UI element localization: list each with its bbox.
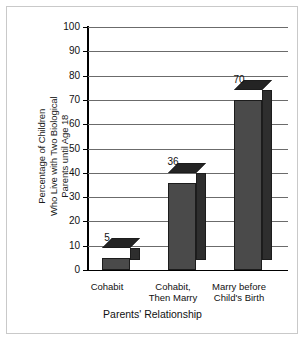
y-tick-label-80: 80 [50, 71, 80, 81]
x-category-label-cohabit-then-marry-line-2: Then Marry [136, 292, 210, 303]
y-tick-label-60: 60 [50, 119, 80, 129]
y-tick-label-100: 100 [50, 22, 80, 32]
y-tick-label-20: 20 [50, 216, 80, 226]
x-category-label-marry-before-birth: Marry before Child's Birth [202, 281, 276, 303]
bar-cohabit-then-marry-side [196, 173, 206, 260]
y-tick-label-70: 70 [50, 95, 80, 105]
bar-cohabit-front [102, 258, 130, 270]
x-category-label-cohabit-line-1: Cohabit [70, 281, 144, 292]
y-tick-label-30: 30 [50, 192, 80, 202]
y-tick-label-90: 90 [50, 46, 80, 56]
x-category-label-marry-before-birth-line-2: Child's Birth [202, 292, 276, 303]
bar-cohabit-side [130, 248, 140, 260]
bar-chart-figure: Percentage of Children Who Live with Two… [0, 0, 305, 341]
y-tick-label-50: 50 [50, 144, 80, 154]
bar-cohabit-then-marry-front [168, 183, 196, 270]
x-category-label-cohabit: Cohabit [70, 281, 144, 292]
x-category-label-cohabit-then-marry: Cohabit, Then Marry [136, 281, 210, 303]
bar-value-label-marry-before-birth: 70 [217, 74, 261, 85]
bar-marry-before-birth-front [234, 100, 262, 270]
x-axis-baseline [88, 270, 288, 271]
bar-marry-before-birth[interactable] [234, 27, 272, 270]
bar-value-label-cohabit-then-marry: 36 [151, 156, 195, 167]
y-tick-label-10: 10 [50, 241, 80, 251]
bar-cohabit-then-marry[interactable] [168, 27, 206, 270]
bar-value-label-cohabit: 5 [85, 232, 129, 243]
x-category-label-marry-before-birth-line-1: Marry before [202, 281, 276, 292]
y-tick-label-40: 40 [50, 168, 80, 178]
y-tick-label-0: 0 [50, 265, 80, 275]
x-axis-title: Parents' Relationship [0, 308, 305, 320]
bar-marry-before-birth-side [262, 90, 272, 260]
x-category-label-cohabit-then-marry-line-1: Cohabit, [136, 281, 210, 292]
